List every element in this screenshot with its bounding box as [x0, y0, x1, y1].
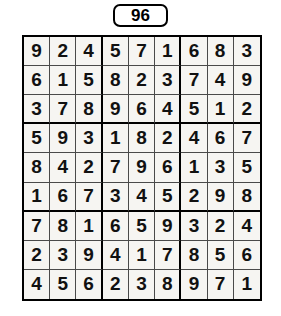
sudoku-cell-r1c9[interactable]: 3	[234, 37, 260, 66]
sudoku-cell-r4c3[interactable]: 3	[76, 124, 102, 153]
sudoku-cell-r3c1[interactable]: 3	[24, 95, 50, 124]
sudoku-cell-r9c1[interactable]: 4	[24, 270, 50, 299]
sudoku-cell-r3c5[interactable]: 6	[129, 95, 155, 124]
sudoku-cell-r9c4[interactable]: 2	[103, 270, 129, 299]
sudoku-cell-r6c1[interactable]: 1	[24, 183, 50, 212]
sudoku-cell-r3c3[interactable]: 8	[76, 95, 102, 124]
sudoku-cell-r6c4[interactable]: 3	[103, 183, 129, 212]
sudoku-cell-r8c8[interactable]: 5	[208, 241, 234, 270]
sudoku-cell-r2c3[interactable]: 5	[76, 66, 102, 95]
cell-value: 5	[162, 186, 173, 206]
sudoku-cell-r2c7[interactable]: 7	[181, 66, 207, 95]
sudoku-cell-r8c9[interactable]: 6	[234, 241, 260, 270]
sudoku-cell-r6c5[interactable]: 4	[129, 183, 155, 212]
cell-value: 5	[83, 70, 94, 90]
sudoku-cell-r4c4[interactable]: 1	[103, 124, 129, 153]
sudoku-cell-r8c1[interactable]: 2	[24, 241, 50, 270]
sudoku-cell-r9c7[interactable]: 9	[181, 270, 207, 299]
cell-value: 9	[136, 157, 147, 177]
sudoku-cell-r9c8[interactable]: 7	[208, 270, 234, 299]
cell-value: 1	[136, 245, 147, 265]
sudoku-cell-r7c9[interactable]: 4	[234, 212, 260, 241]
sudoku-cell-r1c3[interactable]: 4	[76, 37, 102, 66]
sudoku-cell-r3c9[interactable]: 2	[234, 95, 260, 124]
sudoku-cell-r4c1[interactable]: 5	[24, 124, 50, 153]
cell-value: 8	[110, 70, 121, 90]
sudoku-cell-r8c2[interactable]: 3	[50, 241, 76, 270]
cell-value: 9	[215, 186, 226, 206]
sudoku-cell-r1c2[interactable]: 2	[50, 37, 76, 66]
cell-value: 3	[58, 245, 69, 265]
sudoku-cell-r2c9[interactable]: 9	[234, 66, 260, 95]
sudoku-cell-r3c6[interactable]: 4	[155, 95, 181, 124]
sudoku-cell-r6c6[interactable]: 5	[155, 183, 181, 212]
sudoku-cell-r7c7[interactable]: 3	[181, 212, 207, 241]
sudoku-cell-r5c7[interactable]: 1	[181, 153, 207, 182]
sudoku-cell-r7c2[interactable]: 8	[50, 212, 76, 241]
sudoku-cell-r3c4[interactable]: 9	[103, 95, 129, 124]
sudoku-cell-r8c6[interactable]: 7	[155, 241, 181, 270]
sudoku-cell-r7c1[interactable]: 7	[24, 212, 50, 241]
sudoku-cell-r5c6[interactable]: 6	[155, 153, 181, 182]
sudoku-cell-r2c4[interactable]: 8	[103, 66, 129, 95]
sudoku-cell-r5c8[interactable]: 3	[208, 153, 234, 182]
sudoku-cell-r4c2[interactable]: 9	[50, 124, 76, 153]
sudoku-cell-r7c3[interactable]: 1	[76, 212, 102, 241]
sudoku-cell-r6c9[interactable]: 8	[234, 183, 260, 212]
sudoku-cell-r7c4[interactable]: 6	[103, 212, 129, 241]
cell-value: 7	[162, 245, 173, 265]
sudoku-cell-r4c9[interactable]: 7	[234, 124, 260, 153]
cell-value: 2	[162, 128, 173, 148]
sudoku-cell-r5c3[interactable]: 2	[76, 153, 102, 182]
sudoku-cell-r1c1[interactable]: 9	[24, 37, 50, 66]
sudoku-cell-r6c8[interactable]: 9	[208, 183, 234, 212]
sudoku-cell-r6c7[interactable]: 2	[181, 183, 207, 212]
sudoku-cell-r1c6[interactable]: 1	[155, 37, 181, 66]
sudoku-cell-r3c7[interactable]: 5	[181, 95, 207, 124]
sudoku-cell-r2c1[interactable]: 6	[24, 66, 50, 95]
sudoku-cell-r2c6[interactable]: 3	[155, 66, 181, 95]
sudoku-cell-r4c8[interactable]: 6	[208, 124, 234, 153]
cell-value: 2	[31, 245, 42, 265]
sudoku-cell-r9c5[interactable]: 3	[129, 270, 155, 299]
sudoku-cell-r8c7[interactable]: 8	[181, 241, 207, 270]
sudoku-cell-r7c6[interactable]: 9	[155, 212, 181, 241]
sudoku-cell-r8c5[interactable]: 1	[129, 241, 155, 270]
sudoku-cell-r4c6[interactable]: 2	[155, 124, 181, 153]
cell-value: 4	[189, 128, 200, 148]
sudoku-cell-r4c5[interactable]: 8	[129, 124, 155, 153]
cell-value: 9	[162, 216, 173, 236]
sudoku-cell-r5c9[interactable]: 5	[234, 153, 260, 182]
sudoku-cell-r6c2[interactable]: 6	[50, 183, 76, 212]
cell-value: 6	[136, 99, 147, 119]
sudoku-cell-r1c5[interactable]: 7	[129, 37, 155, 66]
cell-value: 4	[215, 70, 226, 90]
sudoku-cell-r5c1[interactable]: 8	[24, 153, 50, 182]
sudoku-cell-r7c8[interactable]: 2	[208, 212, 234, 241]
sudoku-cell-r9c3[interactable]: 6	[76, 270, 102, 299]
sudoku-cell-r6c3[interactable]: 7	[76, 183, 102, 212]
sudoku-cell-r8c3[interactable]: 9	[76, 241, 102, 270]
sudoku-cell-r1c4[interactable]: 5	[103, 37, 129, 66]
sudoku-cell-r3c8[interactable]: 1	[208, 95, 234, 124]
cell-value: 3	[110, 186, 121, 206]
sudoku-cell-r9c2[interactable]: 5	[50, 270, 76, 299]
sudoku-cell-r5c5[interactable]: 9	[129, 153, 155, 182]
sudoku-cell-r9c6[interactable]: 8	[155, 270, 181, 299]
sudoku-cell-r2c2[interactable]: 1	[50, 66, 76, 95]
sudoku-cell-r4c7[interactable]: 4	[181, 124, 207, 153]
cell-value: 8	[242, 186, 253, 206]
sudoku-cell-r8c4[interactable]: 4	[103, 241, 129, 270]
cell-value: 2	[110, 274, 121, 294]
sudoku-cell-r2c8[interactable]: 4	[208, 66, 234, 95]
cell-value: 5	[136, 216, 147, 236]
sudoku-cell-r3c2[interactable]: 7	[50, 95, 76, 124]
sudoku-cell-r9c9[interactable]: 1	[234, 270, 260, 299]
sudoku-cell-r5c4[interactable]: 7	[103, 153, 129, 182]
cell-value: 3	[31, 99, 42, 119]
sudoku-cell-r1c7[interactable]: 6	[181, 37, 207, 66]
sudoku-cell-r5c2[interactable]: 4	[50, 153, 76, 182]
sudoku-cell-r1c8[interactable]: 8	[208, 37, 234, 66]
sudoku-cell-r7c5[interactable]: 5	[129, 212, 155, 241]
sudoku-cell-r2c5[interactable]: 2	[129, 66, 155, 95]
